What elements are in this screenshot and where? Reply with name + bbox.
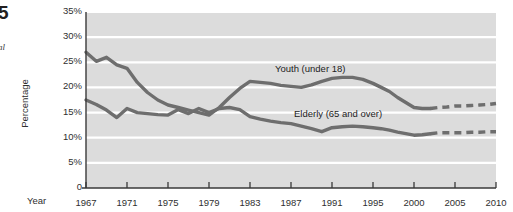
x-tick-label: 1979 xyxy=(189,197,229,208)
plot-background xyxy=(86,12,496,188)
y-tick-label: 20% xyxy=(40,80,82,91)
margin-caption: al xyxy=(0,42,5,52)
x-tick-label: 2005 xyxy=(435,197,475,208)
x-tick-label: 1971 xyxy=(107,197,147,208)
y-tick-label: 0 xyxy=(40,181,82,192)
figure-container: 5 al Percentage Year 35%30%25%20%15%10%5… xyxy=(0,0,513,212)
y-tick-label: 10% xyxy=(40,131,82,142)
x-tick-label: 1987 xyxy=(271,197,311,208)
x-tick-label: 1983 xyxy=(230,197,270,208)
x-tick-label: 1975 xyxy=(148,197,188,208)
y-tick-label: 30% xyxy=(40,30,82,41)
x-tick-label: 1967 xyxy=(66,197,106,208)
x-tick-label: 1995 xyxy=(353,197,393,208)
y-tick-label: 25% xyxy=(40,55,82,66)
series-label-youth: Youth (under 18) xyxy=(275,63,345,74)
y-axis-ticks: 35%30%25%20%15%10%5%0 xyxy=(38,0,82,212)
x-tick-label: 2010 xyxy=(476,197,513,208)
margin-badge: 5 xyxy=(0,2,8,24)
series-label-elderly: Elderly (65 and over) xyxy=(294,108,382,119)
x-tick-label: 2000 xyxy=(394,197,434,208)
x-tick-label: 1991 xyxy=(312,197,352,208)
y-tick-label: 5% xyxy=(40,156,82,167)
y-tick-label: 15% xyxy=(40,106,82,117)
y-axis-title: Percentage xyxy=(19,72,30,136)
y-tick-label: 35% xyxy=(40,5,82,16)
